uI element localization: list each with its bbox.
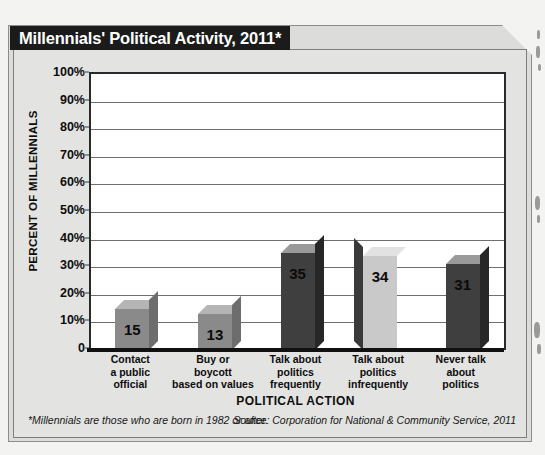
gridline (91, 184, 504, 185)
gridline (91, 212, 504, 213)
bar-side-face (315, 235, 324, 350)
bar: 34 (363, 256, 397, 350)
y-tick-label: 10% (39, 313, 85, 327)
y-tick-label: 70% (39, 148, 85, 162)
y-tick-label: 60% (39, 175, 85, 189)
x-axis-title: POLITICAL ACTION (89, 394, 502, 408)
x-category-label: Never talkaboutpolitics (419, 353, 502, 391)
footnote-row: *Millennials are those who are born in 1… (28, 411, 516, 433)
plot-area: 1513353431 (89, 72, 506, 350)
footnote-source: Source: Corporation for National & Commu… (233, 414, 516, 426)
bar-value-label: 15 (115, 321, 149, 338)
y-tick-label: 0 (39, 341, 85, 355)
x-category-label: Buy orboycottbased on values (172, 353, 255, 391)
bar: 15 (115, 309, 149, 350)
bar-side-face (149, 291, 158, 350)
y-tick-label: 90% (39, 93, 85, 107)
bar: 35 (281, 253, 315, 350)
gridline (91, 129, 504, 130)
paper-speckle (536, 46, 540, 58)
x-axis-category-labels: Contacta publicofficialBuy orboycottbase… (89, 353, 502, 395)
y-tick-label: 20% (39, 286, 85, 300)
x-category-label-line: a public (89, 366, 172, 379)
x-category-label: Contacta publicofficial (89, 353, 172, 391)
gridline (91, 240, 504, 241)
gridline (91, 102, 504, 103)
y-tick-label: 80% (39, 120, 85, 134)
x-category-label-line: Talk about (337, 353, 420, 366)
x-category-label: Talk aboutpoliticsinfrequently (337, 353, 420, 391)
y-axis-ticks: 100%90%80%70%60%50%40%30%20%10%0 (33, 72, 85, 348)
x-category-label-line: frequently (254, 378, 337, 391)
y-tick-label: 30% (39, 258, 85, 272)
bar-side-face (232, 296, 241, 350)
y-tick-label: 50% (39, 203, 85, 217)
x-category-label-line: Buy or (172, 353, 255, 366)
x-category-label-line: Never talk (419, 353, 502, 366)
bar-value-label: 31 (446, 276, 480, 293)
footnote-definition: *Millennials are those who are born in 1… (28, 414, 268, 426)
y-axis-title: PERCENT OF MILLENNIALS (27, 91, 39, 291)
x-category-label-line: politics (337, 366, 420, 379)
x-category-label-line: official (89, 378, 172, 391)
plot-canvas: 1513353431 (91, 74, 504, 350)
x-category-label-line: about (419, 366, 502, 379)
paper-speckle (537, 30, 540, 39)
bar-top-face (363, 247, 406, 256)
paper-speckle (537, 215, 540, 223)
bar-side-face (354, 238, 363, 350)
bar-value-label: 34 (363, 268, 397, 285)
y-tick-label: 100% (39, 65, 85, 79)
paper-speckle (538, 64, 541, 71)
x-category-label-line: politics (254, 366, 337, 379)
y-tick-label: 40% (39, 231, 85, 245)
bar-value-label: 35 (281, 265, 315, 282)
chart-title-banner: Millennials' Political Activity, 2011* (10, 26, 290, 50)
bar-value-label: 13 (198, 326, 232, 343)
gridline (91, 157, 504, 158)
x-category-label-line: politics (419, 378, 502, 391)
x-category-label-line: infrequently (337, 378, 420, 391)
bar-side-face (480, 246, 489, 350)
x-axis-baseline (87, 348, 504, 352)
bar: 13 (198, 314, 232, 350)
bar: 31 (446, 264, 480, 350)
x-category-label: Talk aboutpoliticsfrequently (254, 353, 337, 391)
paper-speckle (534, 322, 540, 338)
paper-speckle (537, 344, 541, 354)
x-category-label-line: boycott (172, 366, 255, 379)
paper-speckle (535, 196, 540, 210)
x-category-label-line: Talk about (254, 353, 337, 366)
x-category-label-line: based on values (172, 378, 255, 391)
x-category-label-line: Contact (89, 353, 172, 366)
